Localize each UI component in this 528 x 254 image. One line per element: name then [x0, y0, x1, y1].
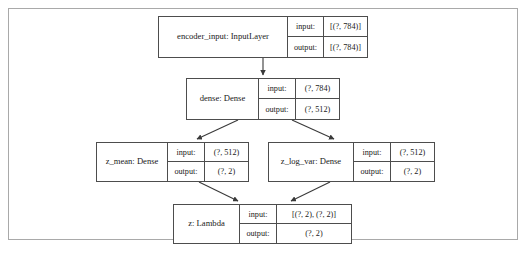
io-output-value: (?, 2) [391, 162, 434, 181]
node-encoder-input-label: encoder_input: InputLayer [159, 17, 287, 57]
io-row-input: input: (?, 512) [168, 143, 248, 162]
io-row-output: output: [(?, 784)] [288, 37, 367, 57]
io-input-label: input: [168, 143, 205, 161]
model-graph-figure: encoder_input: InputLayer input: [(?, 78… [0, 0, 528, 254]
io-row-output: output: (?, 2) [240, 224, 351, 243]
io-row-output: output: (?, 512) [259, 99, 339, 119]
io-input-value: [(?, 784)] [324, 17, 367, 36]
io-output-label: output: [288, 37, 324, 57]
io-row-input: input: [(?, 784)] [288, 17, 367, 37]
io-row-input: input: (?, 784) [259, 79, 339, 99]
node-z-log-var[interactable]: z_log_var: Dense input: (?, 512) output:… [268, 142, 435, 182]
node-encoder-input-io: input: [(?, 784)] output: [(?, 784)] [287, 17, 367, 57]
io-input-value: [(?, 2), (?, 2)] [277, 205, 351, 223]
node-z-mean[interactable]: z_mean: Dense input: (?, 512) output: (?… [96, 142, 249, 182]
io-input-label: input: [240, 205, 277, 223]
node-dense-label: dense: Dense [187, 79, 258, 119]
io-row-output: output: (?, 2) [168, 162, 248, 181]
node-z-log-var-label: z_log_var: Dense [269, 143, 353, 181]
node-z-log-var-io: input: (?, 512) output: (?, 2) [353, 143, 434, 181]
io-output-label: output: [168, 162, 205, 181]
io-output-value: (?, 2) [277, 224, 351, 243]
node-z-mean-label: z_mean: Dense [97, 143, 167, 181]
io-row-input: input: [(?, 2), (?, 2)] [240, 205, 351, 224]
io-input-label: input: [259, 79, 296, 98]
io-output-label: output: [354, 162, 391, 181]
node-dense-io: input: (?, 784) output: (?, 512) [258, 79, 339, 119]
node-encoder-input[interactable]: encoder_input: InputLayer input: [(?, 78… [158, 16, 368, 58]
io-input-value: (?, 512) [391, 143, 434, 161]
io-output-label: output: [259, 99, 296, 119]
io-row-input: input: (?, 512) [354, 143, 434, 162]
node-z-lambda-label: z: Lambda [174, 205, 239, 243]
io-row-output: output: (?, 2) [354, 162, 434, 181]
node-z-lambda[interactable]: z: Lambda input: [(?, 2), (?, 2)] output… [173, 204, 352, 244]
io-output-label: output: [240, 224, 277, 243]
io-output-value: [(?, 784)] [324, 37, 367, 57]
io-input-label: input: [354, 143, 391, 161]
io-input-value: (?, 784) [296, 79, 339, 98]
node-z-mean-io: input: (?, 512) output: (?, 2) [167, 143, 248, 181]
io-input-label: input: [288, 17, 324, 36]
io-input-value: (?, 512) [205, 143, 248, 161]
io-output-value: (?, 2) [205, 162, 248, 181]
io-output-value: (?, 512) [296, 99, 339, 119]
node-z-lambda-io: input: [(?, 2), (?, 2)] output: (?, 2) [239, 205, 351, 243]
node-dense[interactable]: dense: Dense input: (?, 784) output: (?,… [186, 78, 340, 120]
